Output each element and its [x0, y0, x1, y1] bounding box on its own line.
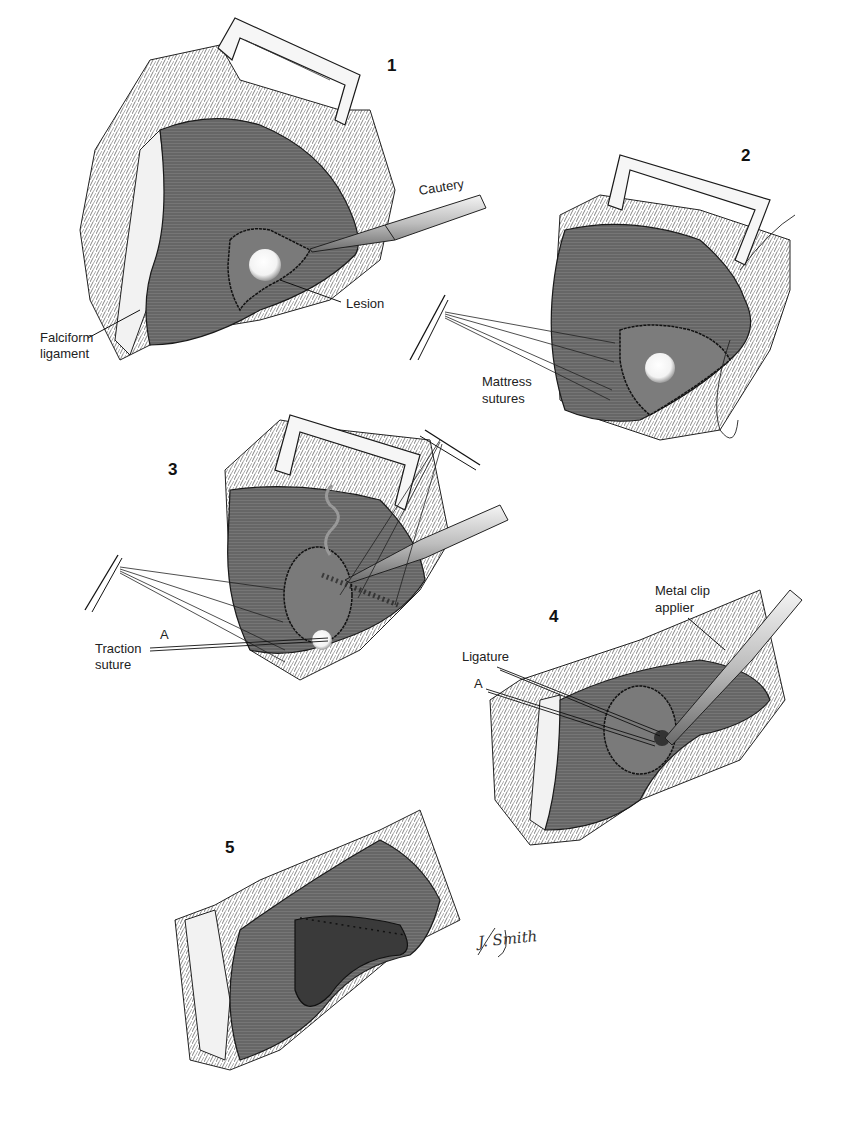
illustration-artwork: 1 — [0, 0, 849, 1133]
panel-4 — [486, 590, 802, 845]
panel-number-5: 5 — [225, 838, 234, 858]
panel-number-4: 4 — [549, 607, 558, 627]
panel-5 — [175, 810, 460, 1070]
label-metal-clip-applier-line1: Metal clip — [655, 583, 710, 598]
label-traction-suture-line1: Traction — [95, 641, 141, 656]
surgical-illustration: 1 — [0, 0, 849, 1133]
label-mattress-sutures-line2: sutures — [482, 391, 525, 406]
label-lesion: Lesion — [346, 296, 384, 311]
label-ligature: Ligature — [462, 649, 509, 664]
label-traction-suture-line2: suture — [95, 657, 131, 672]
label-falciform-ligament-line1: Falciform — [40, 330, 93, 345]
label-a-panel3: A — [160, 627, 169, 642]
panel-number-3: 3 — [168, 460, 177, 480]
panel-3 — [85, 415, 508, 680]
label-mattress-sutures-line1: Mattress — [482, 374, 532, 389]
label-falciform-ligament-line2: ligament — [40, 346, 89, 361]
label-a-panel4: A — [474, 676, 483, 691]
panel-number-1: 1 — [387, 56, 396, 76]
label-metal-clip-applier-line2: applier — [655, 600, 694, 615]
panel-2 — [410, 155, 795, 440]
panel-number-2: 2 — [741, 146, 750, 166]
